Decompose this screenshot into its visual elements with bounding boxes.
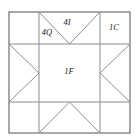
label-4q: 4Q xyxy=(42,27,52,37)
quilt-block-canvas: 4I 4Q 1C 1F xyxy=(0,0,138,140)
quilt-block-diagram: 4I 4Q 1C 1F xyxy=(0,0,138,140)
label-4i: 4I xyxy=(63,17,71,27)
label-1f: 1F xyxy=(64,66,74,76)
label-1c: 1C xyxy=(109,22,119,32)
